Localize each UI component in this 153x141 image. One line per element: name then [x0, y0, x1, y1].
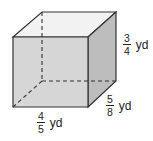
width-fraction: 4 5: [37, 111, 45, 134]
depth-numerator: 5: [106, 94, 114, 106]
width-numerator: 4: [37, 111, 45, 123]
height-denominator: 4: [124, 45, 130, 56]
depth-label: 5 8 yd: [106, 94, 132, 117]
prism-diagram: [0, 0, 153, 141]
depth-unit: yd: [119, 99, 132, 113]
height-fraction: 3 4: [123, 33, 131, 56]
width-denominator: 5: [38, 123, 44, 134]
depth-denominator: 8: [107, 106, 113, 117]
height-unit: yd: [136, 38, 149, 52]
width-unit: yd: [50, 116, 63, 130]
height-numerator: 3: [123, 33, 131, 45]
height-label: 3 4 yd: [123, 33, 149, 56]
width-label: 4 5 yd: [37, 111, 63, 134]
depth-fraction: 5 8: [106, 94, 114, 117]
